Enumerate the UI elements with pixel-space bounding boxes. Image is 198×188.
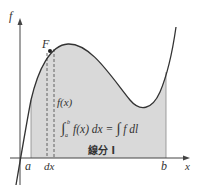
y-axis-arrow-icon	[18, 18, 23, 25]
a-label: a	[25, 159, 31, 173]
formula-upper-limit: b	[67, 119, 70, 125]
formula-lower-limit: a	[65, 132, 68, 138]
b-label: b	[161, 159, 167, 173]
formula-text: f(x) dx = ∫ f dl	[73, 120, 138, 137]
x-axis-label: x	[184, 160, 190, 172]
integral-diagram: f x F a b dx f(x) ∫ b a f(x) dx = ∫ f dl…	[0, 0, 198, 188]
fx-label: f(x)	[57, 96, 73, 109]
y-axis-label: f	[9, 9, 14, 23]
segment-label: 線分 l	[88, 144, 115, 156]
dx-label: dx	[44, 160, 55, 172]
point-f-label: F	[41, 37, 50, 51]
